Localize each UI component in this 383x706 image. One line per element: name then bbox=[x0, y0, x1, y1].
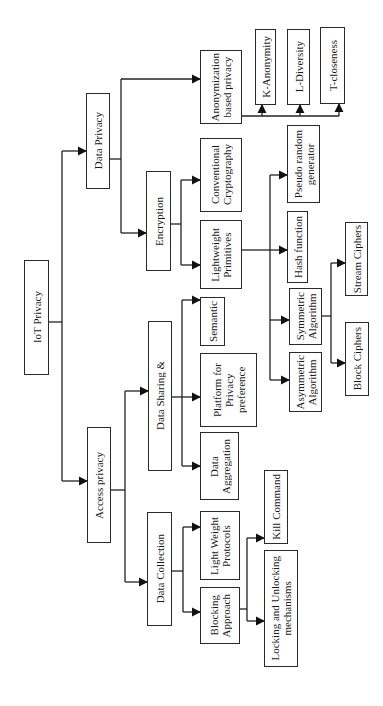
node-label: Asymmetric Algorithm bbox=[294, 355, 318, 409]
node-label: IoT Privacy bbox=[31, 291, 43, 343]
node-label: K-Anonymity bbox=[260, 36, 272, 98]
node-label: Light Weight Protocols bbox=[208, 517, 232, 575]
node-label: Data Aggregation bbox=[208, 439, 232, 494]
node-anonymization: Anonymization based privacy bbox=[200, 50, 242, 124]
node-label: Stream Ciphers bbox=[351, 225, 363, 293]
node-label: Conventional Cryptography bbox=[209, 144, 233, 205]
node-data-sharing: Data Sharing & bbox=[148, 321, 172, 471]
node-label: Semantic bbox=[207, 301, 219, 342]
node-k-anonymity: K-Anonymity bbox=[255, 29, 276, 105]
node-light-weight-protocols: Light Weight Protocols bbox=[200, 511, 240, 580]
node-label: Platform for Privacy preference bbox=[211, 363, 247, 417]
node-lightweight-primitives: Lightweight Primitives bbox=[200, 220, 242, 289]
node-data-aggregation: Data Aggregation bbox=[200, 432, 239, 500]
node-iot-privacy: IoT Privacy bbox=[24, 260, 49, 375]
node-data-privacy: Data Privacy bbox=[86, 93, 110, 189]
node-access-privacy: Access privacy bbox=[87, 427, 111, 543]
node-label: Data Sharing & bbox=[154, 361, 166, 430]
node-label: L-Diversity bbox=[293, 41, 305, 92]
node-stream-ciphers: Stream Ciphers bbox=[345, 222, 368, 296]
node-blocking-approach: Blocking Approach bbox=[200, 587, 240, 644]
node-label: Access privacy bbox=[93, 452, 105, 519]
node-label: Symmetric Algorithm bbox=[294, 292, 318, 340]
node-block-ciphers: Block Ciphers bbox=[345, 322, 369, 396]
node-label: Encryption bbox=[153, 197, 165, 246]
node-kill-command: Kill Command bbox=[264, 470, 288, 544]
connector-lines bbox=[0, 0, 383, 706]
node-label: Hash function bbox=[292, 216, 304, 278]
node-label: Lightweight Primitives bbox=[209, 228, 233, 282]
node-pseudo-random-generator: Pseudo random generator bbox=[287, 125, 320, 203]
node-symmetric-algorithm: Symmetric Algorithm bbox=[289, 288, 322, 345]
node-label: Data Collection bbox=[154, 534, 166, 603]
node-label: Blocking Approach bbox=[208, 594, 232, 637]
node-l-diversity: L-Diversity bbox=[287, 29, 310, 105]
node-label: T-closeness bbox=[327, 40, 339, 91]
node-label: Data Privacy bbox=[92, 112, 104, 169]
node-label: Block Ciphers bbox=[351, 327, 363, 390]
node-platform-privacy-preference: Platform for Privacy preference bbox=[200, 353, 257, 427]
node-locking-unlocking: Locking and Unlocking mechanisms bbox=[264, 550, 298, 667]
node-conventional-cryptography: Conventional Cryptography bbox=[200, 138, 242, 212]
node-label: Locking and Unlocking mechanisms bbox=[269, 556, 293, 660]
node-semantic: Semantic bbox=[200, 297, 225, 346]
node-data-collection: Data Collection bbox=[147, 512, 172, 626]
node-encryption: Encryption bbox=[146, 171, 171, 271]
node-t-closeness: T-closeness bbox=[320, 27, 345, 104]
node-label: Kill Command bbox=[270, 474, 282, 540]
node-asymmetric-algorithm: Asymmetric Algorithm bbox=[289, 352, 322, 412]
node-label: Pseudo random generator bbox=[292, 130, 316, 198]
node-label: Anonymization based privacy bbox=[209, 53, 233, 121]
node-hash-function: Hash function bbox=[287, 211, 308, 283]
